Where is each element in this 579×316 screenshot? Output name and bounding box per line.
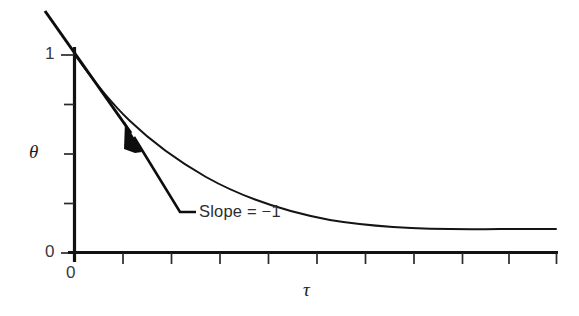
slope-annotation-label: Slope = −1 <box>199 203 281 220</box>
tangent-line <box>45 11 131 133</box>
slope-callout-arrowhead <box>124 122 142 153</box>
y-axis-label-1: 1 <box>45 45 54 62</box>
x-axis-origin-label: 0 <box>66 264 75 281</box>
exponential-decay-curve <box>75 55 556 229</box>
plot-svg <box>0 0 579 316</box>
x-axis-title: τ <box>303 280 310 299</box>
y-axis-label-0: 0 <box>45 243 54 260</box>
figure-canvas: 1 0 0 θ τ Slope = −1 <box>0 0 579 316</box>
slope-callout-leader <box>134 137 196 212</box>
y-axis-title: θ <box>29 142 38 161</box>
